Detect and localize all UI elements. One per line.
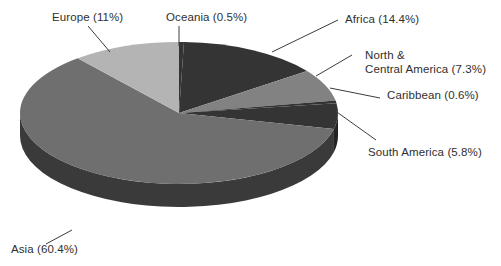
- pie-chart: Oceania (0.5%)Africa (14.4%)North & Cent…: [0, 0, 501, 266]
- leader-line-caribbean: [330, 88, 380, 98]
- leader-line-south-america: [334, 110, 376, 140]
- leader-line-europe: [88, 26, 110, 52]
- slice-label-africa: Africa (14.4%): [345, 12, 419, 26]
- slice-label-europe-text: Europe (11%): [52, 11, 123, 23]
- slice-label-north-central-america: North & Central America (7.3%): [365, 48, 486, 76]
- leader-line-north-central: [316, 55, 352, 76]
- pie-geometry: Oceania (0.5%)Africa (14.4%)North & Cent…: [20, 42, 338, 207]
- slice-label-south-america: South America (5.8%): [368, 145, 482, 159]
- slice-label-europe: Europe (11%): [52, 10, 123, 24]
- leader-line-africa: [272, 20, 338, 52]
- slice-label-north-central-america-line2: Central America (7.3%): [365, 62, 486, 76]
- slice-label-caribbean: Caribbean (0.6%): [387, 88, 479, 102]
- slice-label-oceania-text: Oceania (0.5%): [166, 11, 247, 23]
- slice-label-asia-text: Asia (60.4%): [11, 243, 78, 255]
- slice-label-south-america-text: South America (5.8%): [368, 146, 482, 158]
- pie-chart-graphic: Oceania (0.5%)Africa (14.4%)North & Cent…: [0, 0, 501, 266]
- slice-label-asia: Asia (60.4%): [11, 242, 78, 256]
- slice-label-north-central-america-line1: North &: [365, 48, 486, 62]
- slice-label-oceania: Oceania (0.5%): [166, 10, 247, 24]
- slice-label-caribbean-text: Caribbean (0.6%): [387, 89, 479, 101]
- slice-label-africa-text: Africa (14.4%): [345, 13, 419, 25]
